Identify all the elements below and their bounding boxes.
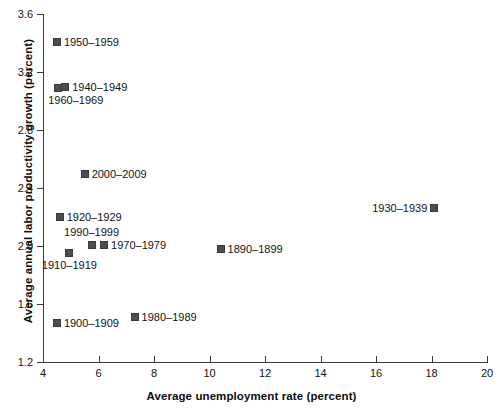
data-point-label: 1920–1929 [67,212,122,223]
data-point-label: 1890–1899 [228,243,283,254]
data-point-marker [65,249,73,257]
y-tick-mark [37,14,44,15]
data-point-label: 1900–1909 [64,317,119,328]
x-axis-title: Average unemployment rate (percent) [0,390,503,402]
y-tick-mark [37,130,44,131]
x-tick-mark [487,356,488,363]
x-tick-label: 14 [314,368,326,379]
y-axis-title: Average annual labor productivity growth… [22,1,34,361]
x-tick-label: 20 [481,368,493,379]
x-tick-mark [99,356,100,363]
data-point-marker [61,83,69,91]
x-tick-mark [432,356,433,363]
data-point-label: 1950–1959 [64,36,119,47]
data-point-marker [54,84,62,92]
data-point-label: 1930–1939 [372,203,427,214]
x-tick-mark [210,356,211,363]
data-point-marker [53,38,61,46]
x-tick-mark [376,356,377,363]
x-tick-label: 10 [203,368,215,379]
data-point-marker [217,245,225,253]
plot-area: 1.21.62.02.42.83.23.6 468101214161820 19… [0,0,503,410]
data-point-label: 1960–1969 [48,95,103,106]
x-tick-label: 8 [151,368,157,379]
data-point-marker [131,313,139,321]
y-tick-mark [37,304,44,305]
x-tick-label: 16 [370,368,382,379]
data-point-label: 1970–1979 [111,239,166,250]
x-tick-mark [43,356,44,363]
y-tick-mark [37,246,44,247]
data-point-marker [81,170,89,178]
data-point-marker [100,241,108,249]
data-point-label: 1990–1999 [64,227,119,238]
data-point-label: 2000–2009 [92,168,147,179]
x-tick-label: 6 [95,368,101,379]
scatter-chart: 1.21.62.02.42.83.23.6 468101214161820 19… [0,0,503,410]
data-point-marker [88,241,96,249]
y-tick-mark [37,188,44,189]
data-point-marker [56,213,64,221]
data-point-label: 1940–1949 [72,81,127,92]
x-tick-mark [321,356,322,363]
data-point-marker [53,319,61,327]
x-tick-mark [154,356,155,363]
data-point-label: 1910–1919 [42,260,97,271]
data-point-label: 1980–1989 [142,312,197,323]
x-tick-label: 18 [425,368,437,379]
y-tick-mark [37,72,44,73]
x-tick-label: 12 [259,368,271,379]
x-tick-label: 4 [40,368,46,379]
data-point-marker [430,204,438,212]
x-tick-mark [265,356,266,363]
